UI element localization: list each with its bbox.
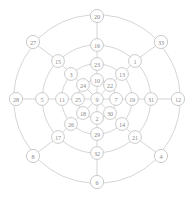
graph-node[interactable]: 10 [91, 74, 104, 87]
graph-node[interactable]: 13 [116, 68, 129, 81]
node-label: 3 [69, 71, 72, 78]
node-label: 6 [95, 179, 98, 186]
node-label: 5 [40, 96, 43, 103]
node-label: 18 [80, 110, 86, 117]
spoke-edge [101, 104, 105, 109]
node-label: 8 [31, 153, 34, 160]
ring-arc-edge [39, 160, 91, 183]
node-label: 31 [148, 96, 154, 103]
graph-node[interactable]: 11 [56, 93, 69, 106]
graph-node[interactable]: 31 [145, 93, 158, 106]
ring-arc-edge [63, 45, 91, 57]
spoke-edge [38, 46, 53, 57]
ring-arc-edge [163, 49, 180, 93]
spoke-edge [115, 117, 118, 119]
graph-node[interactable]: 33 [154, 35, 167, 48]
spoke-edge [88, 90, 93, 95]
node-label: 28 [13, 96, 19, 103]
graph-node[interactable]: 30 [104, 107, 117, 120]
node-label: 10 [94, 77, 100, 84]
ring-arc-edge [43, 105, 54, 132]
ring-arc-edge [43, 66, 54, 93]
graph-node[interactable]: 2 [91, 112, 104, 125]
node-label: 17 [55, 134, 61, 141]
graph-node[interactable]: 1 [129, 55, 142, 68]
graph-node[interactable]: 26 [65, 118, 78, 131]
graph-node[interactable]: 21 [129, 131, 142, 144]
ring-arc-edge [62, 79, 67, 92]
graph-node[interactable]: 28 [9, 92, 22, 105]
node-label: 27 [30, 39, 36, 46]
graph-node[interactable]: 5 [36, 93, 49, 106]
node-label: 4 [159, 153, 162, 160]
ring-arc-edge [104, 160, 156, 183]
ring-arc-edge [76, 64, 90, 70]
spoke-edge [63, 129, 67, 133]
ring-arc-edge [103, 46, 130, 57]
node-label: 21 [132, 134, 138, 141]
ring-arc-edge [103, 128, 117, 134]
node-label: 2 [95, 115, 98, 122]
graph-node[interactable]: 6 [90, 175, 103, 188]
spoke-edge [115, 78, 118, 80]
node-label: 24 [80, 82, 86, 89]
graph-node[interactable]: 24 [77, 79, 90, 92]
graph-node[interactable]: 15 [52, 55, 65, 68]
spoke-edge [140, 141, 156, 152]
graph-node[interactable]: 25 [72, 93, 85, 106]
node-label: 32 [94, 150, 100, 157]
graph-node[interactable]: 20 [90, 9, 103, 22]
ring-arc-edge [14, 49, 31, 93]
spoke-edge [140, 46, 156, 57]
radial-graph-canvas: 9102273021825242313191429261131613121321… [0, 0, 194, 197]
graph-node[interactable]: 18 [77, 107, 90, 120]
ring-arc-edge [163, 106, 180, 150]
node-label: 1 [133, 58, 136, 65]
graph-node[interactable]: 19 [126, 93, 139, 106]
node-label: 23 [94, 61, 100, 68]
node-label: 16 [94, 42, 100, 49]
graph-node[interactable]: 3 [65, 68, 78, 81]
graph-node[interactable]: 22 [104, 79, 117, 92]
node-label: 26 [68, 121, 74, 128]
graph-node[interactable]: 27 [26, 35, 39, 48]
spoke-edge [127, 66, 131, 70]
ring-arc-edge [76, 128, 90, 134]
spoke-edge [127, 129, 131, 133]
graph-node[interactable]: 12 [171, 92, 184, 105]
spoke-edge [101, 90, 105, 95]
node-label: 25 [75, 96, 81, 103]
spoke-edge [88, 103, 93, 108]
node-label: 19 [129, 96, 135, 103]
ring-arc-edge [62, 105, 67, 118]
node-label: 30 [107, 110, 113, 117]
ring-arc-edge [139, 105, 150, 132]
graph-node[interactable]: 17 [52, 131, 65, 144]
node-label: 11 [59, 96, 65, 103]
node-label: 20 [94, 13, 100, 20]
spoke-edge [63, 66, 67, 70]
graph-node[interactable]: 32 [91, 147, 104, 160]
graph-node[interactable]: 14 [116, 118, 129, 131]
graph-node[interactable]: 16 [91, 39, 104, 52]
ring-arc-edge [14, 106, 31, 150]
node-label: 22 [107, 82, 113, 89]
ring-arc-edge [126, 105, 132, 119]
ring-arc-edge [103, 141, 130, 152]
graph-node[interactable]: 8 [26, 149, 39, 162]
graph-node[interactable]: 7 [110, 93, 123, 106]
graph-node[interactable]: 29 [91, 128, 104, 141]
spoke-edge [76, 78, 79, 80]
node-label: 29 [94, 131, 100, 138]
graph-node[interactable]: 23 [91, 58, 104, 71]
node-label: 13 [119, 71, 125, 78]
node-label: 12 [175, 96, 181, 103]
node-label: 9 [95, 96, 98, 103]
graph-node[interactable]: 4 [154, 149, 167, 162]
ring-arc-edge [39, 15, 91, 38]
radial-graph-figure: 9102273021825242313191429261131613121321… [0, 0, 194, 197]
node-label: 7 [114, 96, 117, 103]
ring-arc-edge [63, 141, 91, 153]
graph-node[interactable]: 9 [91, 93, 103, 105]
node-label: 33 [158, 39, 164, 46]
